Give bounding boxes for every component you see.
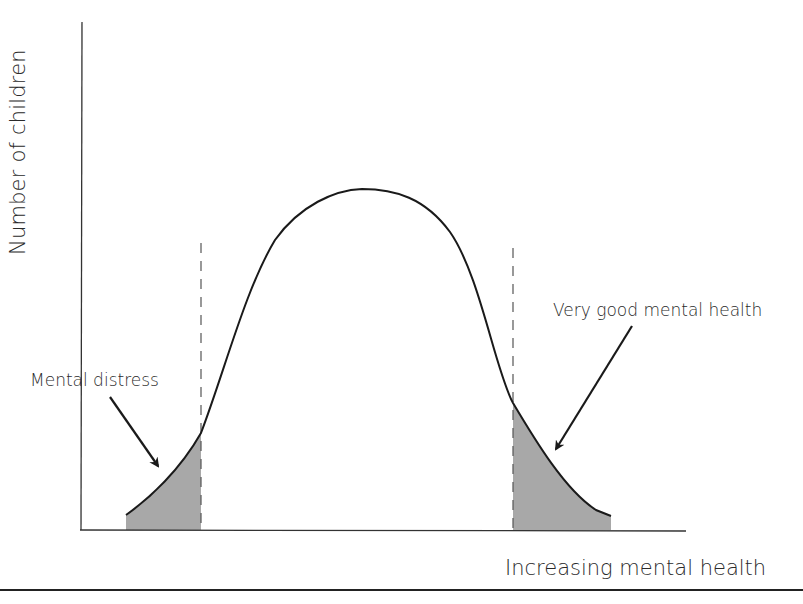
x-axis xyxy=(80,530,686,531)
y-axis-label: Number of children xyxy=(6,49,30,255)
very-good-mental-health-annotation: Very good mental health xyxy=(553,300,762,320)
x-axis-label: Increasing mental health xyxy=(505,556,766,580)
mental-distress-annotation: Mental distress xyxy=(30,370,159,390)
y-axis xyxy=(81,22,82,530)
left-annotation-arrow xyxy=(110,397,158,466)
right-annotation-arrow xyxy=(556,326,632,449)
